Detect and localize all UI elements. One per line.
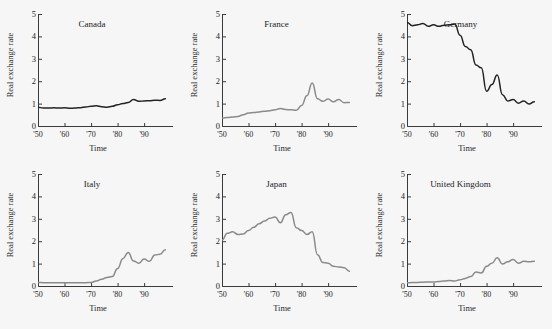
chart-panel-united-kingdom: Real exchange rate012345'50'60'70'80'90T… bbox=[369, 169, 552, 329]
y-axis-ticks: 012345 bbox=[206, 174, 220, 286]
x-tick-label: '70 bbox=[270, 130, 279, 139]
y-axis-label-text: Real exchange rate bbox=[189, 33, 199, 98]
y-tick-label: 4 bbox=[32, 191, 36, 201]
y-tick-label: 2 bbox=[32, 236, 36, 246]
x-tick-label: '70 bbox=[455, 290, 464, 299]
y-tick-label: 4 bbox=[32, 31, 36, 41]
x-axis-ticks: '50'60'70'80'90 bbox=[222, 290, 352, 302]
chart-panel-japan: Real exchange rate012345'50'60'70'80'90T… bbox=[184, 169, 369, 329]
x-tick-label: '60 bbox=[429, 290, 438, 299]
x-tick-label: '60 bbox=[429, 130, 438, 139]
x-tick-label: '70 bbox=[86, 290, 95, 299]
y-tick-label: 3 bbox=[401, 54, 405, 64]
y-axis-label: Real exchange rate bbox=[188, 9, 200, 121]
x-axis-ticks: '50'60'70'80'90 bbox=[38, 290, 168, 302]
y-tick-label: 2 bbox=[216, 236, 220, 246]
y-tick-label: 3 bbox=[32, 54, 36, 64]
y-tick-label: 1 bbox=[216, 99, 220, 109]
x-tick-label: '80 bbox=[113, 290, 122, 299]
y-axis-label-text: Real exchange rate bbox=[5, 193, 15, 258]
plot-area bbox=[222, 174, 358, 294]
x-tick-label: '70 bbox=[86, 130, 95, 139]
y-tick-label: 5 bbox=[216, 169, 220, 179]
x-tick-label: '90 bbox=[323, 130, 332, 139]
y-axis-ticks: 012345 bbox=[391, 174, 405, 286]
y-axis-label: Real exchange rate bbox=[4, 169, 16, 281]
y-tick-label: 1 bbox=[32, 259, 36, 269]
y-tick-label: 4 bbox=[401, 191, 405, 201]
plot-area bbox=[38, 174, 174, 294]
data-line-united-kingdom bbox=[407, 258, 534, 283]
chart-panel-italy: Real exchange rate012345'50'60'70'80'90T… bbox=[0, 169, 184, 329]
x-tick-label: '90 bbox=[508, 130, 517, 139]
y-tick-label: 4 bbox=[216, 191, 220, 201]
chart-panel-canada: Real exchange rate012345'50'60'70'80'90T… bbox=[0, 9, 184, 169]
plot-area bbox=[407, 14, 543, 134]
data-line-france bbox=[222, 83, 349, 118]
y-tick-label: 3 bbox=[216, 54, 220, 64]
y-tick-label: 4 bbox=[401, 31, 405, 41]
y-axis-label: Real exchange rate bbox=[373, 169, 385, 281]
y-axis-label-text: Real exchange rate bbox=[374, 193, 384, 258]
x-axis-label: Time bbox=[28, 143, 168, 153]
x-tick-label: '80 bbox=[297, 290, 306, 299]
y-tick-label: 4 bbox=[216, 31, 220, 41]
x-tick-label: '90 bbox=[508, 290, 517, 299]
x-tick-label: '50 bbox=[33, 290, 42, 299]
y-tick-label: 5 bbox=[401, 169, 405, 179]
y-tick-label: 2 bbox=[401, 236, 405, 246]
y-axis-ticks: 012345 bbox=[391, 14, 405, 126]
y-axis-label: Real exchange rate bbox=[188, 169, 200, 281]
x-axis-ticks: '50'60'70'80'90 bbox=[38, 130, 168, 142]
y-tick-label: 5 bbox=[32, 169, 36, 179]
y-tick-label: 3 bbox=[32, 214, 36, 224]
figure-top-caption bbox=[0, 0, 552, 9]
x-tick-label: '80 bbox=[113, 130, 122, 139]
chart-panel-germany: Real exchange rate012345'50'60'70'80'90T… bbox=[369, 9, 552, 169]
y-tick-label: 2 bbox=[216, 76, 220, 86]
y-tick-label: 3 bbox=[401, 214, 405, 224]
x-tick-label: '60 bbox=[244, 130, 253, 139]
x-tick-label: '90 bbox=[139, 130, 148, 139]
x-tick-label: '60 bbox=[60, 290, 69, 299]
chart-panel-france: Real exchange rate012345'50'60'70'80'90T… bbox=[184, 9, 369, 169]
plot-area bbox=[38, 14, 174, 134]
y-tick-label: 3 bbox=[216, 214, 220, 224]
y-axis-label: Real exchange rate bbox=[373, 9, 385, 121]
y-tick-label: 2 bbox=[401, 76, 405, 86]
x-tick-label: '80 bbox=[297, 130, 306, 139]
x-axis-ticks: '50'60'70'80'90 bbox=[407, 130, 537, 142]
data-line-canada bbox=[38, 99, 165, 109]
x-tick-label: '60 bbox=[60, 130, 69, 139]
x-axis-label: Time bbox=[212, 143, 352, 153]
x-tick-label: '50 bbox=[217, 290, 226, 299]
x-tick-label: '70 bbox=[270, 290, 279, 299]
x-axis-label: Time bbox=[397, 143, 537, 153]
x-tick-label: '80 bbox=[482, 290, 491, 299]
x-tick-label: '80 bbox=[482, 130, 491, 139]
y-axis-label-text: Real exchange rate bbox=[189, 193, 199, 258]
y-tick-label: 1 bbox=[216, 259, 220, 269]
x-tick-label: '50 bbox=[402, 130, 411, 139]
y-tick-label: 2 bbox=[32, 76, 36, 86]
data-line-italy bbox=[38, 250, 165, 283]
y-axis-ticks: 012345 bbox=[22, 14, 36, 126]
y-axis-label-text: Real exchange rate bbox=[5, 33, 15, 98]
panel-grid: Real exchange rate012345'50'60'70'80'90T… bbox=[0, 9, 552, 329]
y-axis-ticks: 012345 bbox=[206, 14, 220, 126]
x-tick-label: '60 bbox=[244, 290, 253, 299]
x-axis-label: Time bbox=[397, 303, 537, 313]
x-axis-ticks: '50'60'70'80'90 bbox=[407, 290, 537, 302]
y-axis-ticks: 012345 bbox=[22, 174, 36, 286]
x-axis-label: Time bbox=[28, 303, 168, 313]
data-line-japan bbox=[222, 213, 349, 272]
x-tick-label: '70 bbox=[455, 130, 464, 139]
y-tick-label: 5 bbox=[401, 9, 405, 19]
y-tick-label: 5 bbox=[32, 9, 36, 19]
y-axis-label-text: Real exchange rate bbox=[374, 33, 384, 98]
y-tick-label: 5 bbox=[216, 9, 220, 19]
x-axis-label: Time bbox=[212, 303, 352, 313]
y-tick-label: 1 bbox=[32, 99, 36, 109]
x-tick-label: '50 bbox=[402, 290, 411, 299]
x-tick-label: '50 bbox=[33, 130, 42, 139]
